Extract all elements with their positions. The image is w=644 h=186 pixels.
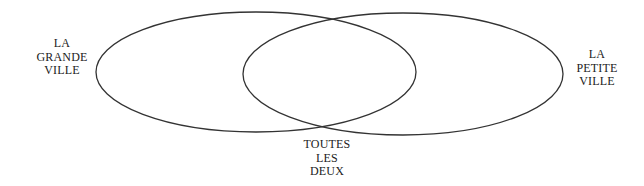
label-line: LA: [22, 37, 102, 51]
label-line: DEUX: [287, 165, 367, 179]
label-la-grande-ville: LA GRANDE VILLE: [22, 37, 102, 78]
label-line: LES: [287, 152, 367, 166]
label-toutes-les-deux: TOUTES LES DEUX: [287, 138, 367, 179]
venn-diagram: LA GRANDE VILLE LA PETITE VILLE TOUTES L…: [0, 0, 644, 186]
ellipse-la-petite-ville: [243, 13, 563, 135]
ellipse-la-grande-ville: [96, 12, 416, 132]
label-line: GRANDE: [22, 51, 102, 65]
label-line: LA: [567, 48, 627, 62]
label-line: VILLE: [567, 75, 627, 89]
label-line: PETITE: [567, 62, 627, 76]
label-la-petite-ville: LA PETITE VILLE: [567, 48, 627, 89]
label-line: VILLE: [22, 64, 102, 78]
label-line: TOUTES: [287, 138, 367, 152]
